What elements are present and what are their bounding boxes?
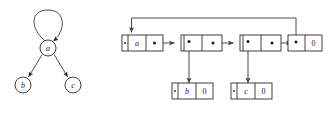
list-node-3[interactable]: [240, 35, 281, 51]
list-node-3-child-pointer-dot: [247, 40, 250, 43]
graph-node-a[interactable]: a: [40, 40, 56, 56]
list-node-a-marker-dot: [124, 42, 126, 44]
list-node-4[interactable]: 0: [288, 35, 322, 51]
diagram-svg: a b c: [0, 0, 328, 116]
list-node-a-pointer-dot: [153, 42, 156, 45]
list-node-2-child-pointer-dot: [188, 40, 191, 43]
list-child-c-key-label: c: [244, 87, 248, 96]
graph-edge-a-self-loop: [34, 10, 62, 41]
list-node-2-box: [181, 35, 222, 51]
adjacency-list-diagram: a: [122, 18, 322, 99]
list-child-b-marker-dot: [174, 90, 176, 92]
graph-edge-a-to-c: [54, 54, 68, 76]
list-child-b-nil-label: 0: [203, 87, 207, 96]
list-node-2-next-pointer-dot: [212, 42, 215, 45]
list-node-4-pointer-dot: [295, 41, 298, 44]
list-child-c-marker-dot: [233, 90, 235, 92]
list-node-4-nil-label: 0: [312, 39, 316, 48]
graph-node-a-label: a: [46, 44, 50, 53]
graph-node-c-label: c: [71, 81, 75, 90]
graph-edge-a-to-b: [29, 54, 43, 76]
list-node-3-box: [240, 35, 281, 51]
graph-node-b[interactable]: b: [15, 77, 31, 93]
list-node-a[interactable]: a: [122, 35, 163, 51]
list-node-3-next-pointer-dot: [271, 42, 274, 45]
list-child-c[interactable]: c 0: [231, 83, 272, 99]
graph-node-b-label: b: [21, 81, 25, 90]
list-child-c-nil-label: 0: [262, 87, 266, 96]
list-node-a-key-label: a: [135, 39, 139, 48]
link-node4-to-nodea-feedback: [132, 18, 297, 37]
graph-node-c[interactable]: c: [65, 77, 81, 93]
list-child-b[interactable]: b 0: [172, 83, 213, 99]
figure-canvas: a b c: [0, 0, 328, 116]
directed-graph: a b c: [15, 10, 81, 93]
list-child-b-key-label: b: [185, 87, 189, 96]
list-node-2[interactable]: [181, 35, 222, 51]
